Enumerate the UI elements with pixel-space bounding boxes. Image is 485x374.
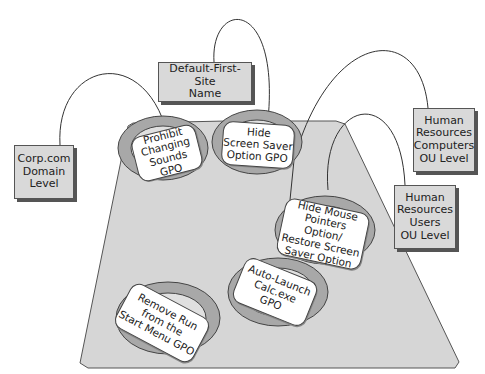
container-site: Default-First-Site Name — [158, 62, 252, 102]
gpo-hide-screensaver: Hide Screen Saver Option GPO — [221, 121, 296, 170]
container-hr-users: Human Resources Users OU Level — [394, 185, 456, 249]
container-hr-computers: Human Resources Computers OU Level — [413, 108, 475, 172]
container-domain: Corp.com Domain Level — [14, 145, 74, 199]
